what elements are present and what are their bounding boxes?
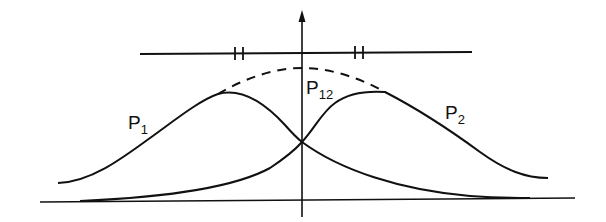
diagram-canvas: P1 P12 P2 xyxy=(0,0,606,222)
vertical-axis xyxy=(299,10,306,217)
label-p12: P12 xyxy=(306,77,333,102)
reference-line xyxy=(140,46,472,60)
arrow-up-icon xyxy=(299,10,306,22)
label-p2: P2 xyxy=(445,102,465,127)
curve-p2 xyxy=(80,92,548,201)
curve-p1 xyxy=(58,92,530,198)
label-p1: P1 xyxy=(128,112,148,137)
